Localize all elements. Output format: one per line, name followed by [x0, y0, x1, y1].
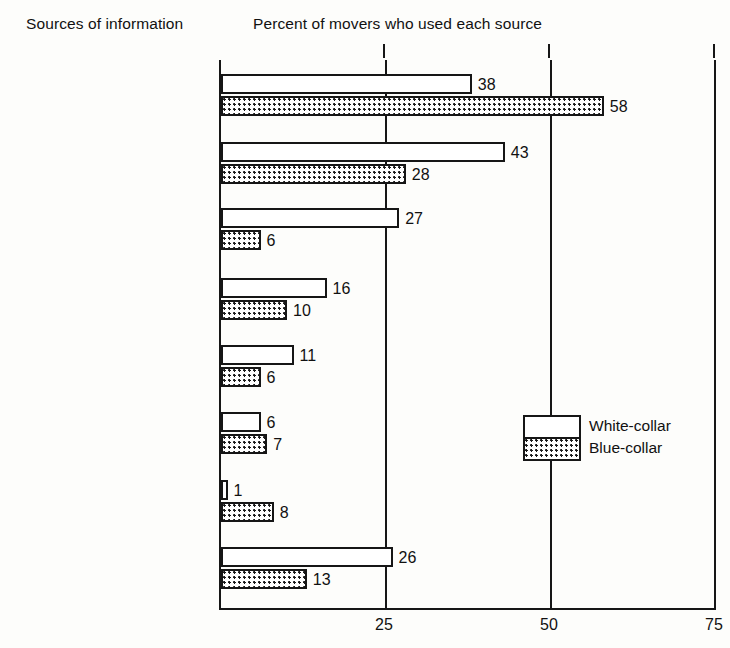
bar-value-label: 11 [300, 346, 317, 366]
bar-chart: Sources of information Percent of movers… [0, 0, 730, 648]
bar-white-collar [221, 74, 472, 94]
bar-value-label: 43 [511, 143, 529, 163]
category-row: Friends, relatives3858 [221, 74, 714, 118]
category-row: Newspaper ads1610 [221, 278, 714, 322]
bar-blue-collar [221, 367, 261, 387]
bar-value-label: 58 [610, 97, 628, 117]
bar-value-label: 7 [273, 435, 282, 455]
bar-value-label: 1 [234, 481, 243, 501]
bar-value-label: 6 [267, 413, 276, 433]
bar-value-label: 26 [399, 548, 417, 568]
bar-white-collar [221, 278, 327, 298]
chart-legend: White-collar Blue-collar [523, 415, 703, 463]
bar-blue-collar [221, 569, 307, 589]
bar-value-label: 6 [267, 231, 276, 251]
x-axis-label-25: 25 [375, 616, 393, 634]
gridline-75 [715, 60, 717, 608]
bar-white-collar [221, 142, 505, 162]
tick-mark-25-top [383, 44, 385, 58]
legend-label-blue-collar: Blue-collar [589, 437, 662, 459]
percent-heading: Percent of movers who used each source [253, 15, 542, 33]
bar-value-label: 38 [478, 75, 496, 95]
category-row: Special trip4328 [221, 142, 714, 186]
plot-area: Friends, relatives3858Special trip4328Em… [219, 60, 716, 610]
category-row: Union18 [221, 480, 714, 524]
bar-value-label: 28 [412, 165, 430, 185]
bar-blue-collar [221, 434, 267, 454]
legend-swatch-blue-collar [523, 437, 581, 461]
tick-mark-50-top [548, 44, 550, 58]
bar-blue-collar [221, 164, 406, 184]
bar-white-collar [221, 480, 228, 500]
legend-label-white-collar: White-collar [589, 415, 671, 437]
bar-blue-collar [221, 96, 604, 116]
category-row: Other2613 [221, 547, 714, 591]
bar-value-label: 10 [293, 301, 311, 321]
x-axis-label-75: 75 [705, 616, 723, 634]
category-row: Employer or employer's representative276 [221, 208, 714, 252]
sources-heading: Sources of information [26, 15, 183, 33]
bar-value-label: 16 [333, 279, 351, 299]
x-axis-label-50: 50 [540, 616, 558, 634]
bar-white-collar [221, 345, 294, 365]
tick-mark-75-top [713, 44, 715, 58]
category-row: Private employment agency116 [221, 345, 714, 389]
bar-blue-collar [221, 230, 261, 250]
bar-white-collar [221, 547, 393, 567]
bar-value-label: 6 [267, 368, 276, 388]
bar-white-collar [221, 412, 261, 432]
bar-blue-collar [221, 300, 287, 320]
bar-blue-collar [221, 502, 274, 522]
bar-value-label: 13 [313, 570, 331, 590]
bar-value-label: 8 [280, 503, 289, 523]
bar-white-collar [221, 208, 399, 228]
legend-swatch-white-collar [523, 415, 581, 439]
bar-value-label: 27 [405, 209, 423, 229]
